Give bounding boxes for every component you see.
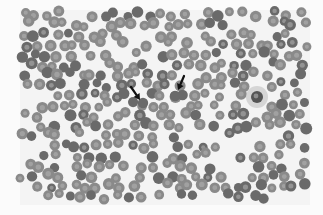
red-blood-cell [16,174,25,183]
red-blood-cell [53,6,64,17]
red-blood-cell [291,120,300,129]
red-blood-cell [68,141,79,152]
red-blood-cell [280,90,290,100]
red-blood-cell [285,181,296,192]
blood-smear-image [0,0,323,215]
red-blood-cell [240,181,252,193]
red-blood-cell [184,140,193,149]
red-blood-cell [189,50,200,61]
red-blood-cell [227,68,237,78]
red-blood-cell [155,9,165,19]
red-blood-cell [86,171,98,183]
red-blood-cell [67,40,77,50]
red-blood-cell [103,119,114,130]
red-blood-cell [64,90,75,101]
red-blood-cell [192,78,204,90]
red-blood-cell [141,41,152,52]
red-blood-cell [128,97,138,107]
red-blood-cell [181,179,192,190]
red-blood-cell [82,159,92,169]
red-blood-cell [267,82,277,92]
red-blood-cell [164,119,175,130]
red-blood-cell [45,40,57,52]
red-blood-cell [217,59,226,68]
red-blood-cell [43,190,53,200]
red-blood-cell [76,170,86,180]
red-blood-cell [262,71,273,82]
red-blood-cell [210,101,219,110]
red-blood-cell [68,100,77,109]
red-blood-cell [276,77,285,86]
red-blood-cell [188,191,197,200]
red-blood-cell [51,149,61,159]
red-blood-cell [167,70,177,80]
red-blood-cell [186,162,198,174]
red-blood-cell [132,48,141,57]
red-blood-cell [173,19,184,30]
red-blood-cell [66,192,75,201]
red-blood-cell [172,60,182,70]
red-blood-cell [55,78,66,89]
red-blood-cell [200,89,209,98]
red-blood-cell [32,182,42,192]
red-blood-cell [195,60,207,72]
red-blood-cell [174,123,183,132]
red-blood-cell [117,36,129,48]
red-blood-cell [103,178,115,190]
red-blood-cell [276,40,285,49]
red-blood-cell [142,77,152,87]
red-blood-cell [300,98,309,107]
red-blood-cell [237,108,249,120]
red-blood-cell [208,121,219,132]
red-blood-cell [299,178,311,190]
red-blood-cell [90,121,101,132]
red-blood-cell [55,189,64,198]
red-blood-cell [250,11,262,23]
red-blood-cell [159,79,169,89]
red-blood-cell [212,48,221,57]
red-blood-cell [124,192,134,202]
red-blood-cell [259,46,270,57]
red-blood-cell [128,140,137,149]
red-blood-cell [194,101,203,110]
red-blood-cell [238,71,249,82]
red-blood-cell [164,38,173,47]
red-blood-cell [274,116,286,128]
red-blood-cell [138,143,149,154]
red-blood-cell [254,141,265,152]
red-blood-cell [17,128,28,139]
red-blood-cell [87,11,98,22]
red-blood-cell [120,107,130,117]
red-blood-cell [237,7,247,17]
red-blood-cell [64,29,73,38]
red-blood-cell [23,79,33,89]
red-blood-cell [269,170,279,180]
red-blood-cell [218,20,228,30]
red-blood-cell [27,30,39,42]
red-blood-cell [296,7,306,17]
red-blood-cell [215,111,224,120]
red-blood-cell [102,97,112,107]
red-blood-cell [27,171,37,181]
red-blood-cell [165,109,175,119]
red-blood-cell [211,143,220,152]
red-blood-cell [201,50,212,61]
red-blood-cell [133,130,144,141]
red-blood-cell [183,19,192,28]
red-blood-cell [201,148,211,158]
red-blood-cell [286,140,295,149]
red-blood-cell [240,121,252,133]
red-blood-cell [172,142,183,153]
red-blood-cell [216,172,227,183]
red-blood-cell [295,169,306,180]
red-blood-cell [210,182,221,193]
red-blood-cell [300,123,312,135]
red-blood-cell [26,57,38,69]
red-blood-cell [93,79,102,88]
red-blood-cell [236,49,246,59]
red-blood-cell [287,37,298,48]
red-blood-cell [177,189,186,198]
red-blood-cell [184,59,195,70]
red-blood-cell [181,37,193,49]
red-blood-cell [166,49,177,60]
